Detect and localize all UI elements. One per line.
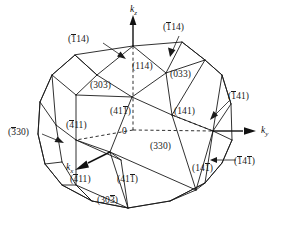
axis-label-ky: ky <box>261 126 268 138</box>
polyhedron-vector-graphic <box>0 0 286 234</box>
face-label-330-left: (330) <box>8 126 29 138</box>
face-label-411-lower-mid: (411) <box>117 173 138 185</box>
face-label-141-bar-right: (141) <box>234 155 255 167</box>
face-label-411-upper: (411) <box>110 105 131 117</box>
ky-arrowhead <box>244 127 256 135</box>
face-label-033: (033) <box>170 70 191 80</box>
kx-arrowhead <box>75 161 89 171</box>
face-label-141-lower-right: (141) <box>192 162 213 174</box>
face-label-114-center: (114) <box>132 62 153 72</box>
face-label-303-upper: (303) <box>90 81 111 91</box>
axis-label-kz: kz <box>130 5 137 17</box>
face-label-330-center: (330) <box>150 142 171 152</box>
axis-label-kx: kx <box>66 163 73 175</box>
face-label-141-right-upper: (141) <box>174 107 195 117</box>
face-label-411-left: (411) <box>66 119 87 131</box>
face-label-114-upper-right: (114) <box>163 21 184 33</box>
kx-axis-line <box>88 152 110 163</box>
origin-label: 0 <box>122 126 127 136</box>
leader-lines <box>42 36 236 163</box>
face-label-141-far-right: (141) <box>228 90 249 102</box>
polyhedron-figure: (114) (114) (114) (033) (303) (411) (141… <box>0 0 286 234</box>
face-label-114-upper-left: (114) <box>68 33 89 45</box>
face-label-303-bottom: (303) <box>97 194 118 206</box>
